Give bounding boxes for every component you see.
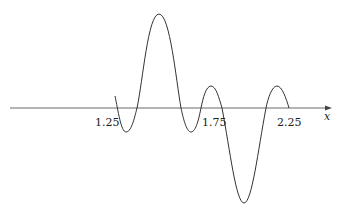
- x-tick-label: 1.25: [95, 116, 120, 129]
- x-tick-label: 2.25: [277, 116, 302, 129]
- data-curve: [115, 14, 289, 203]
- x-tick-label: 1.75: [202, 116, 227, 129]
- chart: 1.25 1.75 2.25 x: [0, 0, 340, 216]
- x-axis-label: x: [324, 110, 331, 123]
